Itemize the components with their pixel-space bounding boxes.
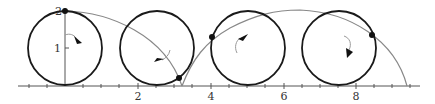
- curve-arc-2: [182, 10, 407, 86]
- x-tick-label-8: 8: [353, 90, 360, 103]
- circle-4: [302, 11, 376, 85]
- arrow-head-3: [238, 34, 248, 41]
- plot-canvas: 2 4 6 8 1 2: [0, 0, 435, 104]
- arrow-head-1: [74, 36, 82, 44]
- rotation-arrows: [65, 34, 353, 62]
- point-3: [209, 34, 215, 40]
- point-1: [62, 8, 68, 14]
- arrow-arc-2: [162, 50, 170, 60]
- rolling-circle-figure: 2 4 6 8 1 2: [0, 0, 435, 104]
- arrow-arc-4: [344, 36, 350, 50]
- y-tick-label-1: 1: [54, 42, 61, 55]
- x-tick-label-6: 6: [281, 90, 288, 103]
- arrow-arc-1: [65, 34, 76, 38]
- x-tick-label-2: 2: [135, 90, 142, 103]
- x-axis: 2 4 6 8: [18, 83, 420, 103]
- x-tick-label-4: 4: [208, 90, 215, 103]
- point-2: [176, 75, 182, 81]
- y-axis: 1 2: [54, 5, 69, 86]
- point-4: [369, 32, 375, 38]
- curve-arc-1: [65, 11, 182, 86]
- circle-3: [211, 11, 285, 85]
- circle-2: [120, 11, 194, 85]
- arrow-arc-3: [236, 38, 240, 53]
- rolling-circles: [28, 11, 376, 85]
